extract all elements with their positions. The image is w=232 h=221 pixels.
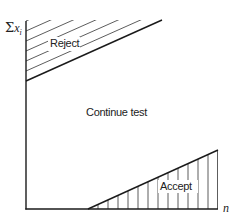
accept-region-label: Accept [160,180,192,192]
reject-boundary-line [26,20,162,81]
y-subscript: i [20,28,22,37]
continue-region-label: Continue test [86,106,147,118]
reject-hatch [26,0,190,71]
reject-region-label: Reject [50,37,79,49]
accept-boundary-line [88,150,218,209]
x-axis-label: n [223,201,229,216]
sigma-symbol: Σ [5,20,14,35]
y-axis-label: Σxi [5,20,22,37]
accept-hatch [98,140,218,209]
